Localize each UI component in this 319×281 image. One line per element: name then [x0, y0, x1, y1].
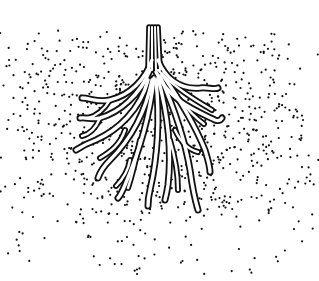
illustration-canvas — [0, 0, 319, 281]
roots-illustration — [0, 0, 319, 281]
